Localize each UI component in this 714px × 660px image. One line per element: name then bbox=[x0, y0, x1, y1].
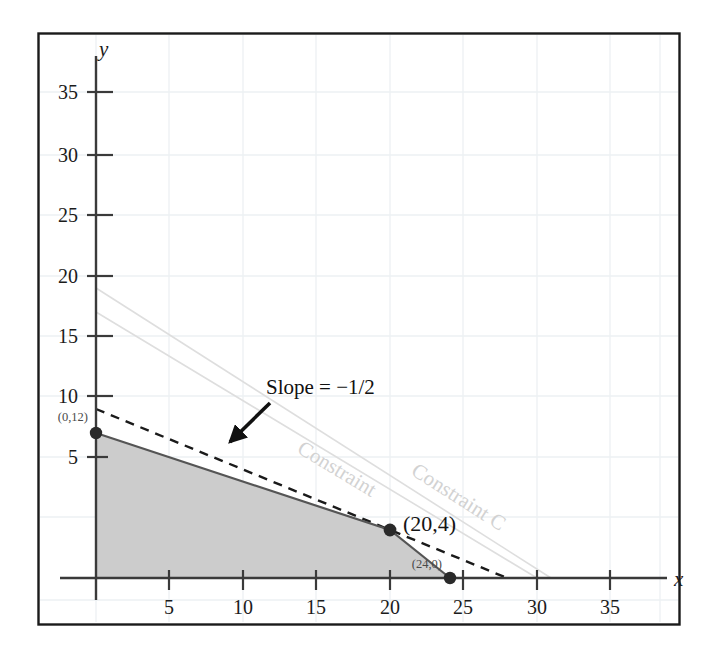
slope-annotation-label: Slope = −1/2 bbox=[266, 375, 375, 399]
x-tick-label-25: 25 bbox=[453, 596, 473, 618]
data-point-20-4 bbox=[384, 524, 397, 537]
x-tick-label-35: 35 bbox=[600, 596, 620, 618]
y-tick-label-10: 10 bbox=[58, 385, 78, 407]
x-axis-label: x bbox=[673, 567, 684, 591]
data-point-label-0-12: (0,12) bbox=[58, 410, 88, 424]
y-tick-label-35: 35 bbox=[58, 81, 78, 103]
linear-programming-plot: 35 30 25 20 15 10 5 5 10 15 20 25 30 35 … bbox=[0, 0, 714, 660]
data-point-label-24-0: (24,0) bbox=[412, 557, 442, 571]
x-tick-label-30: 30 bbox=[527, 596, 547, 618]
data-point-label-20-4: (20,4) bbox=[403, 511, 456, 536]
x-tick-label-5: 5 bbox=[164, 596, 174, 618]
data-point-24-0 bbox=[444, 572, 456, 584]
data-point-0-12 bbox=[90, 427, 102, 439]
x-tick-label-10: 10 bbox=[233, 596, 253, 618]
y-tick-label-25: 25 bbox=[58, 204, 78, 226]
figure-root: 35 30 25 20 15 10 5 5 10 15 20 25 30 35 … bbox=[0, 0, 714, 660]
y-tick-label-30: 30 bbox=[58, 144, 78, 166]
x-tick-label-15: 15 bbox=[306, 596, 326, 618]
y-axis-label: y bbox=[97, 37, 109, 61]
y-tick-label-5: 5 bbox=[68, 446, 78, 468]
x-tick-label-20: 20 bbox=[380, 596, 400, 618]
y-tick-label-15: 15 bbox=[58, 325, 78, 347]
y-tick-label-20: 20 bbox=[58, 265, 78, 287]
